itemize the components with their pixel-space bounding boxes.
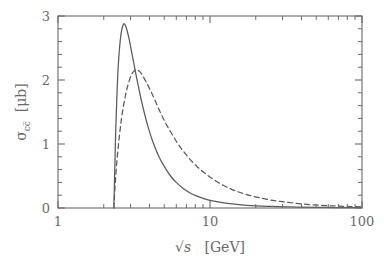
plot-svg: 1101000123 σcc̅ [μb] √s [GeV] [0,0,384,267]
x-tick-label: 10 [202,214,219,229]
x-axis-sqrt-s: √ [175,239,184,255]
x-tick-label: 100 [350,214,375,229]
y-axis-subscript: cc̅ [22,121,32,131]
y-tick-label: 3 [42,9,50,24]
svg-text:√s [GeV]: √s [GeV] [175,239,245,255]
y-tick-label: 2 [42,73,50,88]
figure-container: 1101000123 σcc̅ [μb] √s [GeV] [0,0,384,267]
x-axis-title: √s [GeV] [175,239,245,255]
x-tick-label: 1 [54,214,62,229]
y-tick-label: 0 [42,201,50,216]
y-tick-label: 1 [42,137,50,152]
y-axis-sigma-symbol: σ [13,131,29,141]
